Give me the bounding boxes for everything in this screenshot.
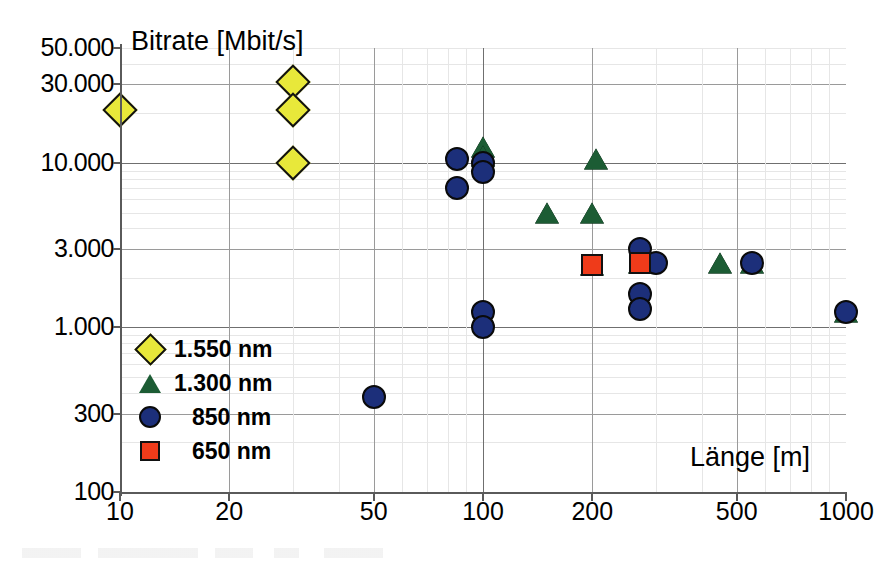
gridline-vertical — [737, 48, 738, 492]
y-axis-tick-mark — [113, 413, 122, 415]
x-axis-tick-mark — [373, 492, 375, 501]
legend-item-1300[interactable]: 1.300 nm — [130, 366, 320, 400]
data-point-circle — [834, 300, 858, 324]
triangle-icon — [130, 374, 170, 393]
y-axis-tick-label: 10.000 — [2, 150, 114, 175]
gridline-vertical — [448, 48, 449, 492]
data-point-diamond — [276, 145, 311, 180]
circle-icon — [130, 406, 170, 428]
gridline-vertical — [466, 48, 467, 492]
data-point-triangle — [584, 149, 608, 170]
y-axis-tick-label: 50.000 — [2, 35, 114, 60]
gridline-vertical — [765, 48, 766, 492]
x-axis-tick-mark — [482, 492, 484, 501]
y-axis-tick-label: 30.000 — [2, 71, 114, 96]
x-axis-tick-label: 50 — [360, 498, 388, 524]
y-axis-tick-mark — [113, 248, 122, 250]
cropped-caption-strip — [22, 548, 442, 558]
gridline-vertical — [811, 48, 812, 492]
x-axis-tick-label: 200 — [571, 498, 613, 524]
y-axis-tick-mark — [113, 83, 122, 85]
x-axis-tick-label: 20 — [215, 498, 243, 524]
chart-legend: 1.550 nm 1.300 nm 850 nm 650 nm — [130, 332, 320, 468]
gridline-vertical — [402, 48, 403, 492]
x-axis-tick-label: 10 — [106, 498, 134, 524]
legend-label: 850 nm — [192, 406, 271, 429]
y-axis-tick-label: 300 — [2, 401, 114, 426]
x-axis-tick-label: 500 — [716, 498, 758, 524]
y-axis-tick-label: 1.000 — [2, 314, 114, 339]
gridline-vertical — [702, 48, 703, 492]
y-axis-title: Bitrate [Mbit/s] — [131, 27, 304, 55]
x-axis-title: Länge [m] — [690, 443, 810, 471]
gridline-vertical — [339, 48, 340, 492]
gridline-vertical — [483, 48, 484, 492]
x-axis-tick-mark — [228, 492, 230, 501]
legend-label: 650 nm — [192, 440, 271, 463]
gridline-vertical — [374, 48, 375, 492]
gridline-vertical — [829, 48, 830, 492]
x-axis-tick-mark — [119, 492, 121, 501]
y-axis-tick-mark — [113, 162, 122, 164]
y-axis-tick-label: 100 — [2, 479, 114, 504]
data-point-circle — [362, 385, 386, 409]
legend-item-1550[interactable]: 1.550 nm — [130, 332, 320, 366]
data-point-square — [581, 254, 603, 276]
data-point-circle — [471, 160, 495, 184]
scatter-chart: 1003001.0003.00010.00030.00050.000 10205… — [0, 0, 879, 564]
legend-label: 1.550 nm — [174, 338, 272, 361]
data-point-diamond — [276, 92, 311, 127]
x-axis-tick-label: 1000 — [818, 498, 874, 524]
y-axis-line — [120, 44, 122, 496]
y-axis-tick-mark — [113, 326, 122, 328]
data-point-circle — [445, 176, 469, 200]
square-icon — [130, 441, 170, 461]
gridline-vertical — [790, 48, 791, 492]
x-axis-tick-mark — [845, 492, 847, 501]
legend-item-650[interactable]: 650 nm — [130, 434, 320, 468]
data-point-circle — [740, 251, 764, 275]
gridline-vertical — [427, 48, 428, 492]
data-point-triangle — [708, 253, 732, 274]
data-point-square — [629, 252, 651, 274]
legend-label: 1.300 nm — [174, 372, 272, 395]
data-point-triangle — [580, 202, 604, 223]
data-point-circle — [471, 315, 495, 339]
diamond-icon — [130, 338, 170, 361]
data-point-triangle — [535, 202, 559, 223]
y-axis-tick-mark — [113, 47, 122, 49]
data-point-circle — [628, 297, 652, 321]
x-axis-tick-mark — [591, 492, 593, 501]
x-axis-tick-label: 100 — [462, 498, 504, 524]
legend-item-850[interactable]: 850 nm — [130, 400, 320, 434]
y-axis-tick-labels: 1003001.0003.00010.00030.00050.000 — [0, 0, 114, 564]
x-axis-tick-mark — [736, 492, 738, 501]
y-axis-tick-label: 3.000 — [2, 236, 114, 261]
data-point-circle — [445, 147, 469, 171]
